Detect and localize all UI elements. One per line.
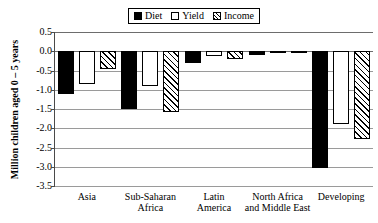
bar-income-2 — [227, 51, 243, 59]
y-tick-label: -3.0 — [12, 162, 52, 172]
bar-yield-4 — [333, 51, 349, 123]
y-tick-label: -3.5 — [12, 181, 52, 191]
y-tick-label: -1.0 — [12, 85, 52, 95]
gridline — [55, 32, 373, 33]
y-tick-label: -0.5 — [12, 66, 52, 76]
plot-area — [55, 32, 373, 186]
bar-diet-2 — [185, 51, 201, 63]
bar-income-0 — [100, 51, 116, 69]
bar-diet-3 — [249, 51, 265, 55]
bar-diet-0 — [58, 51, 74, 93]
y-tick-label: 0.0 — [12, 46, 52, 56]
y-tick-label: -2.0 — [12, 123, 52, 133]
chart-legend: Diet Yield Income — [128, 8, 260, 24]
bar-yield-0 — [79, 51, 95, 84]
legend-label-income: Income — [224, 11, 254, 21]
legend-entry-yield: Yield — [171, 11, 204, 21]
bar-diet-1 — [121, 51, 137, 109]
gridline — [55, 186, 373, 187]
bar-income-4 — [354, 51, 370, 139]
x-axis-label-4: Developing — [297, 191, 378, 202]
income-swatch-icon — [213, 12, 221, 20]
x-axis-label-line: Developing — [297, 191, 378, 202]
y-tick-label: -1.5 — [12, 104, 52, 114]
bar-diet-4 — [312, 51, 328, 168]
bar-income-3 — [291, 51, 307, 53]
y-tick-label: 0.5 — [12, 27, 52, 37]
bar-yield-2 — [206, 51, 222, 56]
bar-chart: Diet Yield Income Million children aged … — [0, 0, 378, 223]
yield-swatch-icon — [171, 12, 179, 20]
legend-label-diet: Diet — [145, 11, 162, 21]
legend-entry-diet: Diet — [134, 11, 162, 21]
bar-yield-3 — [270, 51, 286, 53]
diet-swatch-icon — [134, 12, 142, 20]
x-axis-label-line: and Middle East — [234, 202, 322, 213]
bar-yield-1 — [142, 51, 158, 86]
legend-label-yield: Yield — [182, 11, 204, 21]
y-tick-label: -2.5 — [12, 143, 52, 153]
legend-entry-income: Income — [213, 11, 254, 21]
bar-income-1 — [163, 51, 179, 111]
